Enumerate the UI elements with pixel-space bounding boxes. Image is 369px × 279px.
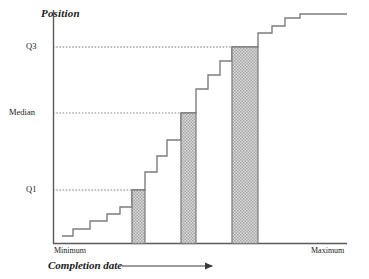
- x-tick-label-maximum: Maximum: [311, 247, 344, 255]
- y-axis-title: Position: [41, 8, 80, 19]
- bar-median: [181, 113, 196, 244]
- bar-q3: [232, 47, 258, 244]
- x-tick-label-minimum: Minimum: [54, 247, 86, 255]
- quantile-step-chart: Position Q3 Median Q1 Minimum Maximum Co…: [0, 0, 369, 279]
- y-tick-label-q1: Q1: [26, 185, 36, 194]
- y-tick-label-q3: Q3: [26, 42, 36, 51]
- x-axis-caption: Completion date: [48, 260, 122, 271]
- gridlines: [53, 47, 258, 190]
- bar-q1: [132, 190, 145, 244]
- quantile-bars: [132, 47, 258, 244]
- y-tick-label-median: Median: [9, 108, 35, 117]
- chart-canvas: [0, 0, 369, 279]
